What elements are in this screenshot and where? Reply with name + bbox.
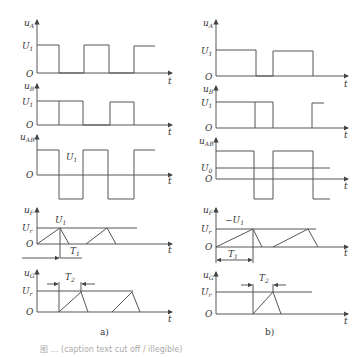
level-Ur: Ur (22, 286, 34, 297)
figure-caption: 图 … (caption text cut off / illegible) (40, 343, 182, 354)
panel-label-b: b) (265, 327, 274, 337)
xlabel-t: t (344, 316, 348, 326)
level-U1: U1 (201, 46, 212, 57)
xlabel-t: t (168, 76, 172, 86)
annotation-U1: U1 (55, 215, 66, 226)
ylabel-uAB: uAB (20, 132, 35, 143)
level-U1: U1 (201, 98, 212, 109)
xlabel-t: t (168, 127, 172, 137)
xlabel-t: t (344, 181, 348, 191)
level-U0: U0 (201, 163, 213, 174)
plot-b-uF: uF Ur −U1 T1 O t (201, 205, 348, 263)
origin-label: O (205, 123, 213, 133)
panel-label-a: a) (100, 327, 109, 337)
ramp-1 (216, 229, 262, 247)
period-T1: T1 (70, 246, 80, 257)
plot-a-uG: uG Ur T2 O t (22, 268, 172, 324)
plot-b-uA: uA U1 O t (201, 18, 348, 89)
level-Ur: Ur (201, 224, 213, 235)
period-T2: T2 (259, 273, 269, 284)
ramp-1 (59, 292, 88, 312)
xlabel-t: t (344, 248, 348, 258)
xlabel-t: t (168, 314, 172, 324)
xlabel-t: t (168, 245, 172, 255)
plot-b-uG: uG Ur T2 O t (201, 270, 348, 326)
waveform-uB (37, 101, 134, 125)
waveform-uA (37, 45, 155, 73)
plot-b-uAB: uAB U0 O t (199, 136, 348, 199)
origin-label: O (205, 72, 213, 82)
annotation-neg-U1: −U1 (225, 215, 244, 226)
ramp-2 (86, 228, 116, 244)
ylabel-uF: uF (203, 205, 214, 216)
origin-label: O (205, 174, 213, 184)
xlabel-t: t (344, 130, 348, 140)
plot-b-uB: uB U1 O t (201, 84, 348, 140)
ylabel-uA: uA (24, 18, 35, 29)
origin-label: O (26, 69, 34, 79)
annotation-U1: U1 (66, 152, 77, 163)
plot-a-uF: uF Ur U1 T1 O t (22, 205, 172, 258)
waveform-uB-rise (312, 103, 324, 128)
origin-label: O (205, 309, 213, 319)
waveform-uB (216, 102, 273, 128)
origin-label: O (26, 239, 34, 249)
origin-label: O (26, 307, 34, 317)
ylabel-uA: uA (203, 18, 214, 29)
plot-a-uB: uB U1 O t (22, 81, 172, 137)
level-Ur: Ur (22, 223, 34, 234)
panel-a: uA U1 O t uB U1 O t uAB U1 O t (20, 18, 172, 337)
xlabel-t: t (168, 176, 172, 186)
panel-b: uA U1 O t uB U1 O t uAB U0 O t (199, 18, 348, 337)
ramp-2 (112, 292, 140, 312)
origin-label: O (26, 120, 34, 130)
origin-label: O (205, 242, 213, 252)
ramp-1 (253, 292, 281, 314)
level-U1: U1 (22, 41, 33, 52)
ylabel-uAB: uAB (199, 136, 214, 147)
ylabel-uG: uG (24, 268, 35, 279)
plot-a-uAB: uAB U1 O t (20, 132, 172, 199)
waveform-uA (216, 50, 313, 76)
level-U1: U1 (22, 97, 33, 108)
xlabel-t: t (344, 79, 348, 89)
ramp-1 (37, 228, 69, 244)
waveform-diagram: uA U1 O t uB U1 O t uAB U1 O t (0, 0, 363, 357)
ylabel-uG: uG (203, 270, 214, 281)
plot-a-uA: uA U1 O t (22, 18, 172, 86)
period-T2: T2 (65, 272, 75, 283)
ylabel-uB: uB (24, 81, 35, 92)
waveform-uAB (37, 150, 155, 199)
level-Ur: Ur (201, 287, 213, 298)
ylabel-uF: uF (24, 205, 35, 216)
ramp-2 (273, 229, 318, 247)
ylabel-uB: uB (203, 84, 214, 95)
origin-label: O (26, 170, 34, 180)
period-T1: T1 (228, 249, 238, 260)
waveform-uAB (216, 151, 330, 199)
